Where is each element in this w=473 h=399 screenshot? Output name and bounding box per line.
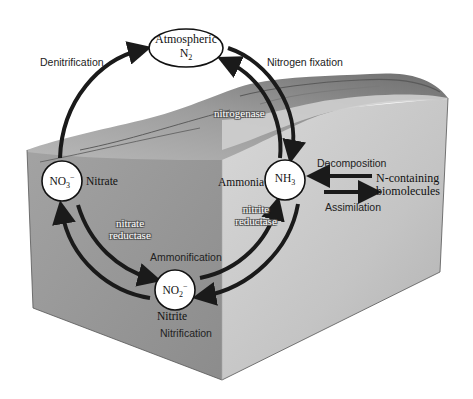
label-nitrification: Nitrification xyxy=(160,327,212,339)
n2-line2: N2 xyxy=(149,46,223,65)
label-ammonia: Ammonia xyxy=(218,176,264,188)
label-nitrate-reductase: nitrate reductase xyxy=(100,217,160,241)
label-nitrogen-fixation: Nitrogen fixation xyxy=(267,56,343,68)
label-ammonification: Ammonification xyxy=(150,251,222,263)
label-nitrogenase: nitrogenase xyxy=(214,107,265,119)
label-decomposition: Decomposition xyxy=(317,157,386,169)
node-no3: NO3− xyxy=(42,173,82,190)
node-nh3: NH3 xyxy=(265,172,305,187)
label-nitrate: Nitrate xyxy=(86,175,118,187)
n2-line1: Atmospheric xyxy=(149,32,223,46)
label-nitrite-reductase: nitrite reductase xyxy=(226,203,286,227)
label-denitrification: Denitrification xyxy=(40,56,104,68)
label-assimilation: Assimilation xyxy=(325,201,381,213)
node-atmospheric-n2: Atmospheric N2 xyxy=(149,32,223,65)
label-n-containing-biomolecules: N-containing biomolecules xyxy=(376,172,440,198)
label-nitrite: Nitrite xyxy=(157,310,187,322)
node-no2: NO2− xyxy=(155,282,195,299)
